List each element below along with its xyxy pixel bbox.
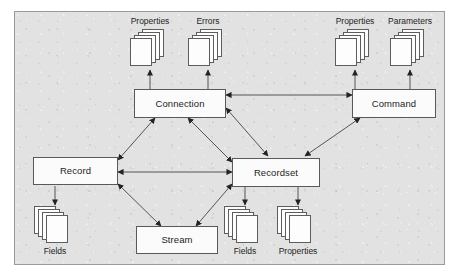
node-command[interactable]: Command bbox=[352, 89, 436, 118]
node-label: Connection bbox=[155, 99, 204, 109]
collection-label: Fields bbox=[218, 247, 272, 256]
page-stack-icon bbox=[34, 206, 76, 244]
link-command-recordset bbox=[305, 118, 360, 156]
node-label: Recordset bbox=[254, 168, 298, 178]
page-stack-icon bbox=[389, 29, 431, 67]
page-stack-icon bbox=[334, 29, 376, 67]
collection-label: Properties bbox=[271, 247, 325, 256]
node-label: Command bbox=[372, 99, 417, 109]
link-connection-record bbox=[118, 118, 155, 160]
node-recordset[interactable]: Recordset bbox=[232, 158, 320, 187]
node-label: Record bbox=[60, 166, 91, 176]
node-record[interactable]: Record bbox=[33, 157, 118, 185]
page-stack-icon bbox=[187, 29, 229, 67]
page-stack-icon bbox=[224, 206, 266, 244]
collection-recordset-properties: Properties bbox=[271, 206, 325, 256]
node-stream[interactable]: Stream bbox=[136, 226, 218, 254]
collection-connection-errors: Errors bbox=[181, 17, 235, 67]
page-stack-icon bbox=[277, 206, 319, 244]
collection-label: Properties bbox=[328, 17, 382, 26]
link-connection-recordset bbox=[188, 118, 232, 162]
collection-connection-properties: Properties bbox=[123, 17, 177, 67]
collection-label: Parameters bbox=[383, 17, 437, 26]
collection-recordset-fields: Fields bbox=[218, 206, 272, 256]
diagram-canvas: Properties Errors Properties Parameters … bbox=[0, 0, 461, 279]
collection-command-parameters: Parameters bbox=[383, 17, 437, 67]
collection-command-properties: Properties bbox=[328, 17, 382, 67]
collection-label: Errors bbox=[181, 17, 235, 26]
collection-record-fields: Fields bbox=[28, 206, 82, 256]
link-connection-recordset-alt bbox=[226, 108, 268, 156]
node-label: Stream bbox=[161, 235, 192, 245]
link-record-stream bbox=[118, 184, 161, 226]
collection-label: Fields bbox=[28, 247, 82, 256]
page-stack-icon bbox=[129, 29, 171, 67]
collection-label: Properties bbox=[123, 17, 177, 26]
node-connection[interactable]: Connection bbox=[134, 89, 226, 118]
